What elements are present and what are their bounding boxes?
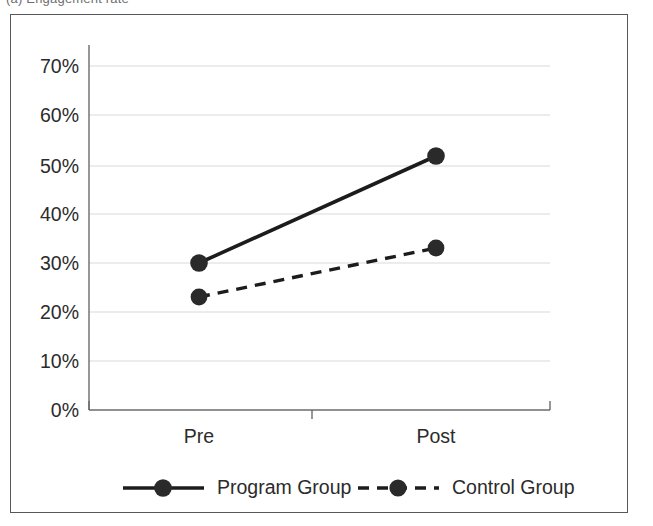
chart-legend: Program Group Control Group [123, 476, 575, 498]
y-tick-label-70: 70% [40, 55, 79, 77]
y-axis-tick-labels: 70% 60% 50% 40% 30% 20% 10% 0% [40, 55, 79, 421]
y-tick-label-20: 20% [40, 301, 79, 323]
y-tick-label-60: 60% [40, 104, 79, 126]
data-point-control-post [428, 240, 445, 257]
data-point-program-post [427, 147, 445, 165]
y-tick-label-50: 50% [40, 155, 79, 177]
y-tick-label-0: 0% [51, 399, 79, 421]
legend-marker-program-group [154, 479, 172, 497]
data-point-program-pre [190, 254, 208, 272]
legend-entry-program-group[interactable]: Program Group [123, 476, 352, 498]
chart-plot-area: 70% 60% 50% 40% 30% 20% 10% 0% Pre Post [11, 15, 626, 511]
x-tick-label-pre: Pre [184, 425, 214, 447]
chart-frame-border: 70% 60% 50% 40% 30% 20% 10% 0% Pre Post [10, 14, 628, 513]
legend-marker-control-group [389, 479, 406, 496]
legend-label-control-group: Control Group [452, 476, 575, 498]
x-tick-label-post: Post [416, 425, 456, 447]
data-point-control-pre [191, 289, 208, 306]
y-tick-label-40: 40% [40, 203, 79, 225]
x-axis-tick-labels: Pre Post [184, 425, 456, 447]
legend-label-program-group: Program Group [217, 476, 352, 498]
line-chart-figure: (a) Engagement rate 70% 60% 50% 40% [0, 0, 653, 526]
gridlines [89, 66, 550, 361]
legend-entry-control-group[interactable]: Control Group [358, 476, 575, 498]
x-axis [89, 401, 550, 419]
series-control-group-line [199, 248, 436, 297]
y-tick-label-10: 10% [40, 350, 79, 372]
series-program-group-line [199, 156, 436, 263]
clipped-caption-text: (a) Engagement rate [6, 0, 206, 7]
y-tick-label-30: 30% [40, 252, 79, 274]
